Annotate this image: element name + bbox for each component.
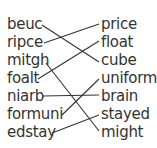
line-formuni-uniform [62,79,99,115]
left-word: beuc [7,15,42,33]
line-ripce-price [44,24,99,43]
left-word: foalt [7,69,39,87]
right-word: price [101,15,137,33]
left-word: edstay [7,123,56,141]
left-word: mitgh [7,51,49,69]
right-word: stayed [101,105,150,123]
right-word: float [101,33,133,51]
left-word: formuni [7,105,63,123]
right-word: might [101,123,143,141]
left-word: ripce [7,33,43,51]
right-word: brain [101,87,138,105]
right-word: cube [101,51,136,69]
right-word: uniform [101,69,157,87]
word-matching-diagram: beuc ripce mitgh foalt niarb formuni eds… [0,0,157,148]
line-beuc-cube [42,25,99,62]
left-word: niarb [7,87,44,105]
line-niarb-brain [42,95,99,96]
